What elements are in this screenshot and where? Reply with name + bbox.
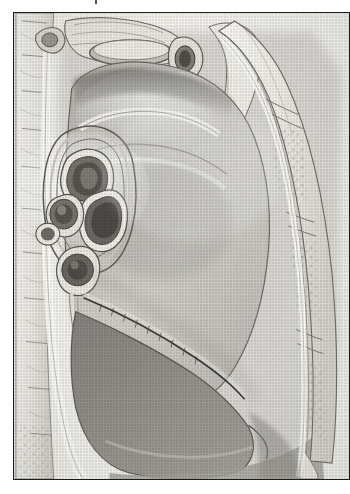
illustration-plate bbox=[14, 13, 349, 479]
anatomical-illustration-artwork bbox=[14, 13, 349, 479]
cropped-text-artifact-icon bbox=[95, 0, 97, 4]
figure-page bbox=[0, 0, 350, 494]
illustration-frame bbox=[13, 12, 350, 480]
